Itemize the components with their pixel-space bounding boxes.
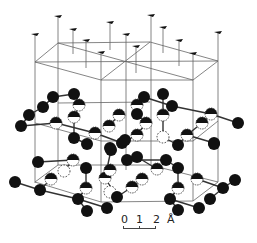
solid-atom	[34, 184, 46, 196]
scale-label-2: 2	[153, 214, 160, 226]
solid-atom	[32, 156, 44, 168]
flag-markers	[31, 14, 222, 55]
lattice-line	[193, 61, 218, 80]
solid-atom	[80, 162, 92, 174]
half-filled-atom	[172, 182, 184, 194]
lattice-line	[58, 42, 150, 43]
half-filled-atom	[157, 109, 169, 121]
half-filled-atom	[89, 127, 101, 139]
solid-atom	[81, 138, 93, 150]
lattice-line	[101, 42, 150, 80]
solid-atom	[101, 202, 113, 214]
solid-atom	[138, 91, 150, 103]
half-filled-atom	[68, 111, 80, 123]
solid-atom	[172, 162, 184, 174]
solid-atom	[81, 205, 93, 217]
half-filled-atom	[104, 164, 116, 176]
half-filled-atom	[136, 173, 148, 185]
solid-atom	[232, 117, 244, 129]
half-filled-atom	[67, 154, 79, 166]
solid-atom	[164, 193, 176, 205]
scale-label-0: 0	[121, 214, 128, 226]
lattice-lines	[35, 42, 218, 202]
half-filled-atom	[126, 181, 138, 193]
half-filled-atom	[73, 99, 85, 111]
half-filled-atom	[131, 129, 143, 141]
scale-label-1: 1	[136, 214, 143, 226]
solid-atom	[131, 151, 143, 163]
half-filled-atom	[50, 117, 62, 129]
solid-atom	[15, 120, 27, 132]
half-filled-atom	[80, 182, 92, 194]
solid-atom	[47, 91, 59, 103]
scale-tick	[155, 226, 156, 229]
half-filled-atom	[191, 173, 203, 185]
half-filled-atom	[113, 109, 125, 121]
half-filled-atom	[151, 163, 163, 175]
atomic-bonds	[15, 94, 238, 211]
crystal-structure-diagram	[0, 0, 257, 243]
half-filled-atom	[140, 117, 152, 129]
lattice-line	[35, 43, 58, 62]
scale-unit-angstrom: Å	[167, 214, 175, 226]
solid-atom	[166, 100, 178, 112]
solid-atom	[111, 191, 123, 203]
half-filled-atom	[196, 117, 208, 129]
scale-tick	[123, 226, 124, 229]
half-filled-atom	[103, 120, 115, 132]
solid-atom	[172, 139, 184, 151]
solid-atom	[229, 174, 241, 186]
vacancy-atom	[58, 165, 70, 177]
lattice-line	[35, 62, 101, 80]
solid-atom	[157, 88, 169, 100]
solid-atom	[204, 193, 216, 205]
solid-atom	[208, 138, 220, 150]
half-filled-atom	[181, 129, 193, 141]
solid-atom	[23, 109, 35, 121]
solid-atom	[193, 202, 205, 214]
solid-atom	[72, 193, 84, 205]
solid-atom	[9, 176, 21, 188]
solid-atom	[160, 154, 172, 166]
bond	[56, 123, 95, 133]
half-filled-atom	[45, 173, 57, 185]
solid-atom	[131, 108, 143, 120]
solid-atom	[68, 132, 80, 144]
vacancy-atom	[157, 131, 169, 143]
solid-atom	[37, 101, 49, 113]
solid-atom	[217, 182, 229, 194]
solid-atom	[68, 88, 80, 100]
solid-atom	[105, 144, 117, 156]
scale-bar: 0 1 2 Å	[118, 214, 178, 234]
solid-atom	[119, 134, 131, 146]
atoms	[9, 88, 244, 217]
lattice-line	[150, 42, 218, 61]
half-filled-atom	[205, 108, 217, 120]
scale-tick	[139, 226, 140, 229]
